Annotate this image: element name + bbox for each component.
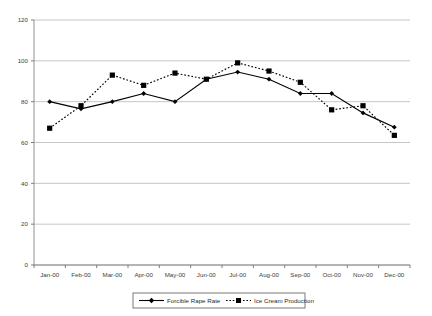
x-tick-label: Jun-00 [197, 271, 216, 278]
x-tick-label: Nov-00 [353, 271, 374, 278]
data-point-marker [47, 126, 52, 131]
y-tick-label: 100 [18, 57, 29, 64]
data-point-marker [392, 133, 397, 138]
legend-label-ice-cream-production: Ice Cream Production [254, 297, 314, 304]
x-axis-ticks: Jan-00Feb-00Mar-00Apr-00May-00Jun-00Jul-… [34, 265, 410, 278]
x-tick-label: Mar-00 [103, 271, 123, 278]
data-point-marker [172, 70, 177, 75]
x-tick-label: Feb-00 [71, 271, 91, 278]
line-chart: 020406080100120 Jan-00Feb-00Mar-00Apr-00… [0, 0, 432, 316]
data-point-marker [266, 68, 271, 73]
x-tick-label: Jul-00 [229, 271, 246, 278]
chart-legend: Forcible Rape Rate Ice Cream Production [133, 293, 314, 308]
legend-item-ice-cream-production: Ice Cream Production [226, 297, 314, 304]
y-axis-ticks: 020406080100120 [18, 16, 34, 268]
data-point-marker [329, 107, 334, 112]
y-tick-label: 120 [18, 16, 29, 23]
y-tick-label: 0 [25, 261, 29, 268]
data-point-marker [298, 80, 303, 85]
x-tick-label: Oct-00 [322, 271, 341, 278]
data-point-marker [360, 103, 365, 108]
x-tick-label: May-00 [165, 271, 186, 278]
x-tick-label: Jan-00 [40, 271, 59, 278]
x-tick-label: Sep-00 [290, 271, 311, 278]
chart-container: 020406080100120 Jan-00Feb-00Mar-00Apr-00… [0, 0, 432, 316]
y-tick-label: 60 [21, 139, 28, 146]
x-tick-label: Aug-00 [259, 271, 280, 278]
data-point-marker [78, 103, 83, 108]
y-tick-label: 40 [21, 180, 28, 187]
data-point-marker [110, 73, 115, 78]
y-tick-label: 80 [21, 98, 28, 105]
legend-label-forcible-rape-rate: Forcible Rape Rate [167, 297, 221, 304]
x-tick-label: Dec-00 [384, 271, 405, 278]
square-marker-icon [236, 298, 241, 303]
data-point-marker [235, 60, 240, 65]
data-point-marker [204, 77, 209, 82]
data-point-marker [141, 83, 146, 88]
y-tick-label: 20 [21, 220, 28, 227]
x-tick-label: Apr-00 [134, 271, 153, 278]
legend-item-forcible-rape-rate: Forcible Rape Rate [139, 297, 221, 304]
